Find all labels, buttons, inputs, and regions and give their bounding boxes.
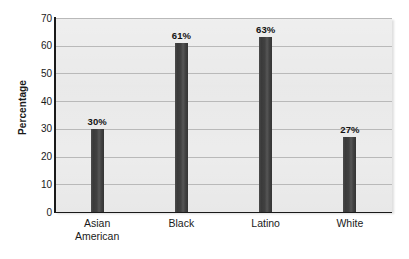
y-axis-tick-label: 0 [30,207,52,218]
gridline [55,73,392,74]
gridline [55,101,392,102]
y-axis-tick-label: 20 [30,151,52,162]
bar [259,37,272,212]
y-axis-tick-label: 50 [30,68,52,79]
bar-value-label: 30% [88,116,107,127]
x-axis-tick-label: Latino [251,217,280,230]
y-axis-tick-label: 60 [30,40,52,51]
x-axis-tick-label: White [336,217,363,230]
y-axis-tick-label: 70 [30,13,52,24]
gridline [55,46,392,47]
bar-chart-figure: Percentage 010203040506070 Asian America… [0,0,409,259]
gridline [55,18,392,19]
y-axis-title-text: Percentage [17,80,28,135]
gridline [55,184,392,185]
y-axis-tick-labels: 010203040506070 [30,12,52,214]
bar [175,43,188,212]
y-axis-tick-label: 30 [30,123,52,134]
bar-value-label: 63% [256,24,275,35]
bar-value-label: 61% [172,30,191,41]
x-axis-line [54,212,392,214]
x-axis-tick-label: Asian American [75,217,119,242]
y-axis-line [54,17,56,213]
bar [91,129,104,212]
gridline [55,157,392,158]
y-axis-tick-label: 10 [30,179,52,190]
y-axis-tick-label: 40 [30,96,52,107]
bar [343,137,356,212]
bar-value-label: 27% [340,124,359,135]
x-axis-tick-label: Black [169,217,195,230]
